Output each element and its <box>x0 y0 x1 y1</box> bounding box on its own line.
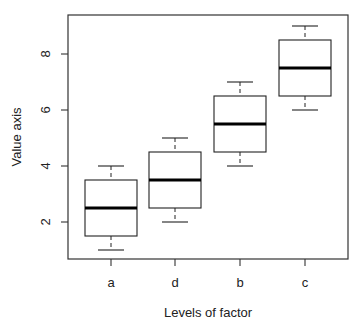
y-tick-label: 4 <box>38 162 53 169</box>
box-b <box>214 82 266 166</box>
y-tick-label: 2 <box>38 218 53 225</box>
box-d <box>149 138 201 222</box>
x-axis-title: Levels of factor <box>164 305 253 320</box>
boxes <box>85 26 331 250</box>
y-tick-label: 6 <box>38 106 53 113</box>
x-axis: adbc <box>107 259 308 290</box>
box-c <box>279 26 331 110</box>
box-a <box>85 166 137 250</box>
x-tick-label: d <box>171 275 178 290</box>
x-tick-label: a <box>107 275 115 290</box>
y-axis-title: Value axis <box>9 107 24 167</box>
y-axis: 2468 <box>38 50 68 225</box>
x-tick-label: b <box>236 275 243 290</box>
boxplot-chart: 2468 adbc Value axis Levels of factor <box>0 0 360 322</box>
x-tick-label: c <box>302 275 309 290</box>
y-tick-label: 8 <box>38 50 53 57</box>
